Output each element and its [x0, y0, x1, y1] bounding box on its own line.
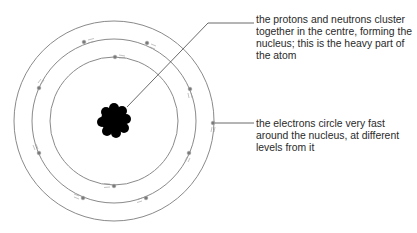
leader-lines [127, 23, 254, 123]
nucleus-label: the protons and neutrons cluster togethe… [256, 14, 416, 62]
electron [82, 39, 94, 44]
nucleus [97, 103, 131, 138]
leader-nucleus [127, 23, 254, 107]
electrons-label: the electrons circle very fast around th… [256, 118, 416, 154]
electron [211, 121, 215, 132]
